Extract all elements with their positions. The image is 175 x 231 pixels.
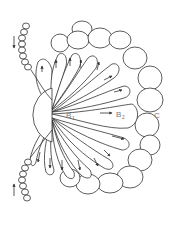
diagram-canvas: B 1 B 2 C (0, 0, 175, 231)
svg-text:B: B (116, 110, 121, 119)
svg-text:2: 2 (122, 114, 125, 120)
label-c: C (154, 111, 160, 120)
svg-text:B: B (66, 111, 71, 120)
svg-text:1: 1 (72, 115, 75, 121)
